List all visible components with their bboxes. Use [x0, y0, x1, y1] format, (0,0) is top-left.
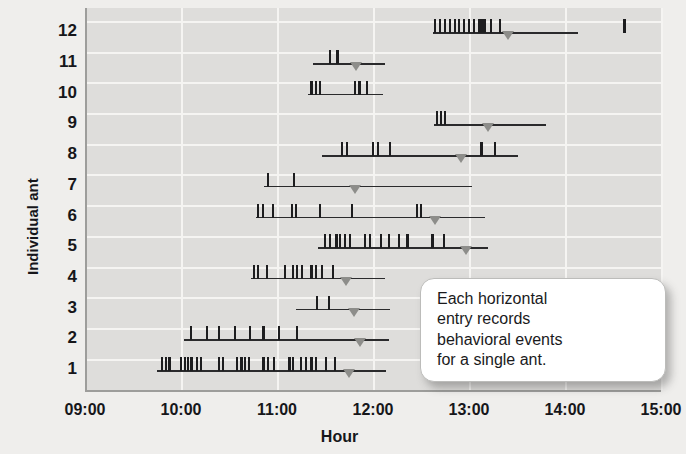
gridline-horizontal	[86, 236, 661, 238]
behavioral-event-tick	[358, 81, 360, 95]
behavioral-event-tick	[468, 19, 470, 33]
highlight-marker-triangle	[343, 369, 355, 378]
behavioral-event-tick	[296, 326, 298, 340]
x-tick-label: 10:00	[136, 402, 226, 418]
callout-line-1: Each horizontal	[437, 289, 651, 309]
x-tick-label: 12:00	[328, 402, 418, 418]
behavioral-event-tick	[325, 357, 327, 371]
behavioral-event-tick	[319, 81, 321, 95]
behavioral-event-tick	[291, 204, 293, 218]
behavioral-event-tick	[332, 265, 334, 279]
behavioral-event-tick	[431, 234, 433, 248]
behavioral-event-tick	[334, 357, 336, 371]
behavioral-event-tick	[273, 357, 275, 371]
behavioral-event-tick	[436, 111, 438, 125]
behavioral-event-tick	[266, 265, 268, 279]
highlight-marker-triangle	[348, 308, 360, 317]
y-axis-line	[85, 8, 87, 391]
behavioral-event-tick	[499, 19, 501, 33]
behavioral-event-tick	[344, 234, 346, 248]
behavioral-event-tick	[328, 296, 330, 310]
behavioral-event-tick	[440, 111, 442, 125]
behavioral-event-tick	[288, 357, 290, 371]
behavioral-event-tick	[244, 357, 246, 371]
behavioral-event-tick	[339, 234, 341, 248]
highlight-marker-triangle	[429, 216, 441, 225]
gridline-horizontal	[86, 174, 661, 176]
behavioral-event-tick	[315, 357, 317, 371]
behavioral-event-tick	[310, 265, 312, 279]
behavioral-event-tick	[388, 234, 390, 248]
behavioral-event-tick	[218, 357, 220, 371]
gridline-horizontal	[86, 267, 661, 269]
behavioral-event-tick	[267, 173, 269, 187]
behavioral-event-tick	[398, 234, 400, 248]
behavioral-event-tick	[473, 19, 475, 33]
y-tick-label: 5	[45, 237, 77, 254]
behavioral-event-tick	[389, 142, 391, 156]
gridline-horizontal	[86, 82, 661, 84]
x-tick-label: 09:00	[40, 402, 130, 418]
behavioral-event-tick	[458, 19, 460, 33]
behavioral-event-tick	[257, 204, 259, 218]
behavioral-event-tick	[480, 142, 482, 156]
callout-line-3: behavioral events	[437, 330, 651, 350]
callout-line-2: entry records	[437, 309, 651, 329]
behavioral-event-tick	[168, 357, 170, 371]
behavioral-event-tick	[253, 265, 255, 279]
behavioral-event-tick	[310, 357, 312, 371]
behavioral-event-tick	[406, 234, 408, 248]
behavioral-event-tick	[206, 326, 208, 340]
behavioral-event-tick	[272, 204, 274, 218]
behavioral-event-tick	[296, 265, 298, 279]
behavioral-event-tick	[262, 204, 264, 218]
gridline-horizontal	[86, 113, 661, 115]
behavioral-event-tick	[310, 81, 312, 95]
y-tick-label: 9	[45, 114, 77, 131]
behavioral-event-tick	[301, 265, 303, 279]
behavioral-event-tick	[346, 142, 348, 156]
behavioral-event-tick	[463, 19, 465, 33]
behavioral-event-tick	[321, 265, 323, 279]
x-tick-label: 13:00	[424, 402, 514, 418]
behavioral-event-tick	[292, 357, 294, 371]
behavioral-event-tick	[484, 19, 486, 33]
behavioral-event-tick	[366, 81, 368, 95]
behavioral-event-tick	[234, 326, 236, 340]
callout-line-4: for a single ant.	[437, 350, 651, 370]
gridline-horizontal	[86, 21, 661, 23]
behavioral-event-tick	[335, 234, 337, 248]
x-axis-line	[85, 390, 661, 392]
behavioral-event-tick	[267, 357, 269, 371]
behavioral-event-tick	[300, 357, 302, 371]
y-tick-label: 6	[45, 207, 77, 224]
y-tick-label: 1	[45, 360, 77, 377]
highlight-marker-triangle	[482, 123, 494, 132]
behavioral-event-tick	[623, 19, 625, 33]
behavioral-event-tick	[416, 204, 418, 218]
highlight-marker-triangle	[354, 338, 366, 347]
behavioral-event-tick	[305, 357, 307, 371]
behavioral-event-tick	[248, 357, 250, 371]
y-tick-label: 3	[45, 299, 77, 316]
behavioral-event-tick	[218, 326, 220, 340]
x-tick-label: 15:00	[616, 402, 686, 418]
behavioral-event-tick	[262, 326, 264, 340]
behavioral-event-tick	[377, 142, 379, 156]
behavioral-event-tick	[444, 19, 446, 33]
x-tick-label: 11:00	[232, 402, 322, 418]
behavioral-event-tick	[295, 204, 297, 218]
behavioral-event-tick	[315, 81, 317, 95]
behavioral-event-tick	[329, 234, 331, 248]
behavioral-event-tick	[490, 19, 492, 33]
behavioral-event-tick	[443, 234, 445, 248]
y-tick-label: 11	[45, 53, 77, 70]
behavioral-event-tick	[190, 326, 192, 340]
behavioral-event-tick	[349, 234, 351, 248]
behavioral-event-tick	[187, 357, 189, 371]
callout-box: Each horizontal entry records behavioral…	[420, 278, 666, 382]
behavioral-event-tick	[184, 357, 186, 371]
observation-span-line	[322, 155, 518, 157]
behavioral-event-tick	[165, 357, 167, 371]
